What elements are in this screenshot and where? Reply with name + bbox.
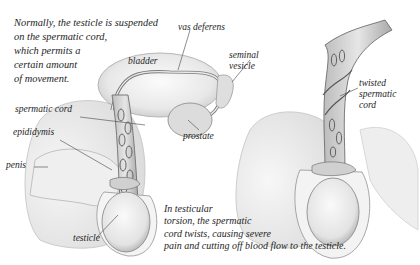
caption-line: cord twists, causing severe: [164, 228, 346, 240]
caption-normal: Normally, the testicle is suspended on t…: [14, 16, 158, 86]
caption-line: pain and cutting off blood flow to the t…: [164, 240, 346, 252]
label-line: twisted: [359, 78, 396, 89]
label-twisted-spermatic-cord: twisted spermatic cord: [359, 78, 396, 111]
caption-torsion: In testicular torsion, the spermatic cor…: [164, 203, 346, 252]
label-prostate: prostate: [183, 131, 214, 142]
label-line: seminal: [229, 50, 259, 61]
epididymis-shape-right: [312, 162, 356, 176]
label-line: cord: [359, 100, 396, 111]
seminal-vesicle-shape: [216, 75, 233, 108]
anatomy-figure: Normally, the testicle is suspended on t…: [0, 0, 420, 265]
label-vas-deferens: vas deferens: [178, 22, 225, 33]
label-line: vesicle: [229, 61, 259, 72]
testicle-shape: [102, 192, 150, 252]
caption-line: In testicular: [164, 203, 346, 215]
label-penis: penis: [6, 160, 26, 171]
label-testicle: testicle: [73, 233, 100, 244]
label-epididymis: epididymis: [13, 127, 54, 138]
label-spermatic-cord: spermatic cord: [15, 104, 72, 115]
label-bladder: bladder: [128, 56, 158, 67]
caption-line: torsion, the spermatic: [164, 215, 346, 227]
label-line: spermatic: [359, 89, 396, 100]
caption-line: of movement.: [14, 72, 158, 86]
caption-line: Normally, the testicle is suspended: [14, 16, 158, 30]
caption-line: on the spermatic cord,: [14, 30, 158, 44]
label-seminal-vesicle: seminal vesicle: [229, 50, 259, 72]
